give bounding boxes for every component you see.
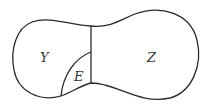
label-z: Z (146, 50, 157, 65)
label-e: E (73, 69, 84, 84)
region-diagram: Y E Z (0, 0, 210, 109)
label-y: Y (40, 50, 50, 65)
